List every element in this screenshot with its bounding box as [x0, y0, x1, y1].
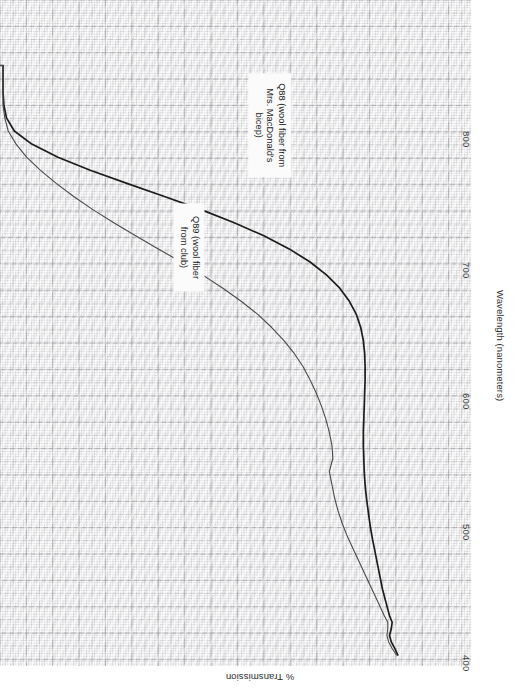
- y-axis-title: % Transmission: [180, 672, 340, 683]
- series-line-q88: [3, 66, 398, 656]
- annotation-q88: Q88 (wool fiber from Mrs. MacDonald's bi…: [249, 73, 292, 177]
- chart-page: 400 500 600 700 800 Wavelength (nanomete…: [0, 0, 522, 695]
- annotation-q89: Q89 (wool fiber from club): [174, 204, 205, 292]
- x-tick-800: 800: [461, 131, 472, 171]
- x-tick-700: 700: [461, 262, 472, 302]
- plot-area: [0, 0, 471, 666]
- x-tick-400: 400: [461, 655, 472, 695]
- series-layer: [0, 66, 398, 656]
- x-axis-title: Wavelength (nanometers): [495, 290, 506, 401]
- series-line-q89: [3, 66, 397, 656]
- x-tick-600: 600: [461, 393, 472, 433]
- x-tick-500: 500: [461, 524, 472, 564]
